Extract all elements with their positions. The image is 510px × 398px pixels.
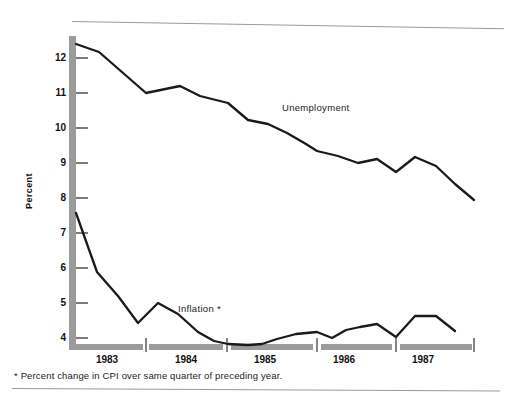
- y-tick-label-11: 11: [44, 87, 66, 98]
- plot-area: [0, 0, 510, 398]
- series-annotation-inflation: Inflation *: [178, 303, 221, 314]
- y-tick-label-7: 7: [44, 227, 66, 238]
- x-tick-label-1983: 1983: [77, 354, 137, 365]
- y-tick-label-10: 10: [44, 122, 66, 133]
- y-axis-ticks: [76, 58, 88, 338]
- x-axis-segment-1983: [69, 344, 143, 350]
- chart-footnote: * Percent change in CPI over same quarte…: [14, 370, 282, 381]
- y-tick-label-12: 12: [44, 52, 66, 63]
- x-tick-label-1984: 1984: [156, 354, 216, 365]
- x-axis-segment-1986: [321, 344, 392, 350]
- y-tick-label-9: 9: [44, 157, 66, 168]
- series-line-inflation: [76, 213, 455, 345]
- x-tick-label-1986: 1986: [314, 354, 374, 365]
- economic-indicators-chart: 12 11 10 9 8 7 6 5 4 Percent 1983 1984 1…: [0, 0, 510, 398]
- x-axis-segment-1987: [400, 344, 472, 350]
- series-annotation-unemployment: Unemployment: [282, 102, 350, 113]
- y-tick-label-8: 8: [44, 192, 66, 203]
- x-tick-label-1985: 1985: [235, 354, 295, 365]
- x-axis-segment-1984: [149, 344, 223, 350]
- y-tick-label-6: 6: [44, 262, 66, 273]
- y-axis-title: Percent: [24, 161, 34, 221]
- series-line-unemployment: [76, 44, 474, 200]
- y-tick-label-4: 4: [44, 332, 66, 343]
- y-tick-label-5: 5: [44, 297, 66, 308]
- x-tick-label-1987: 1987: [393, 354, 453, 365]
- y-axis-spine: [69, 36, 76, 344]
